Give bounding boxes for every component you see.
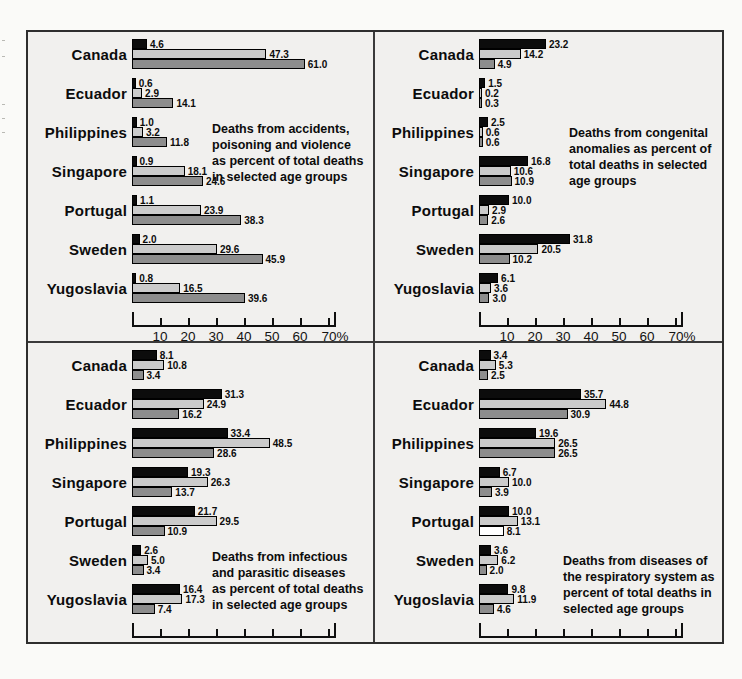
bar bbox=[479, 49, 521, 59]
bar-value-label: 3.4 bbox=[147, 565, 161, 576]
bar bbox=[479, 428, 536, 438]
country-row: Canada3.45.32.5 bbox=[375, 350, 722, 380]
axis-tick bbox=[563, 629, 565, 636]
bar-line: 0.3 bbox=[479, 98, 502, 108]
country-label: Philippines bbox=[375, 435, 479, 452]
bar-value-label: 10.9 bbox=[168, 526, 187, 537]
axis-tick-label: 60 bbox=[639, 640, 654, 642]
bar bbox=[132, 88, 142, 98]
chart-annotation: Deaths from congenitalanomalies as perce… bbox=[569, 125, 711, 189]
axis-tick bbox=[300, 318, 302, 325]
quadrant-infectious: Canada8.110.83.4Ecuador31.324.916.2Phili… bbox=[28, 343, 375, 642]
bar-line: 0.6 bbox=[132, 78, 196, 88]
bar-line: 3.4 bbox=[132, 370, 187, 380]
country-label: Canada bbox=[375, 46, 479, 63]
bar-value-label: 38.3 bbox=[244, 215, 263, 226]
bar-line: 44.8 bbox=[479, 399, 629, 409]
bar bbox=[479, 88, 482, 98]
country-row: Philippines33.448.528.6 bbox=[28, 428, 373, 458]
bar-line: 31.3 bbox=[132, 389, 244, 399]
bar-group: 0.62.914.1 bbox=[132, 78, 196, 108]
bar-value-label: 2.0 bbox=[490, 565, 504, 576]
bar-value-label: 3.4 bbox=[147, 370, 161, 381]
chart-annotation-line: anomalies as percent of bbox=[569, 141, 711, 157]
bar-group: 19.626.526.5 bbox=[479, 428, 578, 458]
chart-annotation-line: percent of total deaths in bbox=[563, 585, 714, 601]
axis-tick bbox=[328, 629, 330, 636]
bar bbox=[132, 127, 143, 137]
bar bbox=[479, 127, 483, 137]
bar-group: 6.710.03.9 bbox=[479, 467, 531, 497]
axis-tick bbox=[675, 318, 677, 325]
axis-tick-label: 30 bbox=[208, 640, 223, 642]
axis-tick bbox=[160, 629, 162, 636]
bar bbox=[479, 360, 496, 370]
bar-group: 35.744.830.9 bbox=[479, 389, 629, 419]
bar bbox=[132, 39, 147, 49]
bar bbox=[479, 39, 546, 49]
bar-group: 1.123.938.3 bbox=[132, 195, 264, 225]
chart-annotation: Deaths from accidents,poisoning and viol… bbox=[212, 121, 363, 185]
bar-line: 13.7 bbox=[132, 487, 230, 497]
bar-line: 7.4 bbox=[132, 604, 205, 614]
bar bbox=[479, 166, 511, 176]
bar-value-label: 16.8 bbox=[531, 156, 550, 167]
bar bbox=[132, 283, 180, 293]
bar-value-label: 8.1 bbox=[507, 526, 521, 537]
bar-line: 19.6 bbox=[479, 428, 578, 438]
bar-value-label: 4.9 bbox=[498, 59, 512, 70]
bar-line: 2.5 bbox=[479, 370, 513, 380]
bar-value-label: 30.9 bbox=[571, 409, 590, 420]
bar-group: 2.029.645.9 bbox=[132, 234, 285, 264]
bar bbox=[479, 399, 606, 409]
bar-value-label: 28.6 bbox=[217, 448, 236, 459]
bar bbox=[132, 370, 144, 380]
country-row: Portugal1.123.938.3 bbox=[28, 195, 373, 225]
bar-line: 16.5 bbox=[132, 283, 267, 293]
bar bbox=[479, 487, 492, 497]
chart-respiratory: Canada3.45.32.5Ecuador35.744.830.9Philip… bbox=[375, 350, 722, 642]
axis-tick-label: 60 bbox=[639, 329, 654, 343]
bar-line: 23.9 bbox=[132, 205, 264, 215]
bar-line: 14.2 bbox=[479, 49, 568, 59]
bar-line: 0.6 bbox=[479, 127, 505, 137]
axis-tick-label: 40 bbox=[236, 329, 251, 343]
bar-line: 26.5 bbox=[479, 438, 578, 448]
axis-end-cap bbox=[681, 623, 683, 636]
axis-tick-label: 70% bbox=[321, 329, 348, 343]
axis-tick bbox=[300, 629, 302, 636]
bar-line: 30.9 bbox=[479, 409, 629, 419]
bar-line: 35.7 bbox=[479, 389, 629, 399]
bar bbox=[132, 389, 222, 399]
bar-line: 3.0 bbox=[479, 293, 515, 303]
bar bbox=[132, 98, 173, 108]
country-label: Singapore bbox=[28, 163, 132, 180]
bar-group: 10.013.18.1 bbox=[479, 506, 540, 536]
bar bbox=[479, 283, 491, 293]
axis-tick bbox=[272, 318, 274, 325]
bar-line: 39.6 bbox=[132, 293, 267, 303]
bar-value-label: 26.3 bbox=[211, 477, 230, 488]
bar bbox=[479, 215, 488, 225]
axis-tick bbox=[244, 629, 246, 636]
bar-line: 0.8 bbox=[132, 273, 267, 283]
bar-value-label: 10.0 bbox=[512, 477, 531, 488]
bar-line: 16.2 bbox=[132, 409, 244, 419]
x-axis-line bbox=[132, 623, 336, 638]
bar-group: 3.66.22.0 bbox=[479, 545, 515, 575]
country-row: Sweden2.029.645.9 bbox=[28, 234, 373, 264]
bar bbox=[479, 293, 489, 303]
bar-line: 47.3 bbox=[132, 49, 327, 59]
country-label: Portugal bbox=[28, 513, 132, 530]
axis-tick-label: 40 bbox=[583, 329, 598, 343]
x-axis: 10203040506070% bbox=[132, 623, 373, 642]
bar-value-label: 39.6 bbox=[248, 293, 267, 304]
bar-line: 17.3 bbox=[132, 594, 205, 604]
bar-line: 3.9 bbox=[479, 487, 531, 497]
bar-value-label: 35.7 bbox=[584, 389, 603, 400]
bar bbox=[132, 350, 157, 360]
axis-tick-label: 50 bbox=[264, 329, 279, 343]
bar-line: 1.0 bbox=[132, 117, 189, 127]
bar-line: 9.8 bbox=[479, 584, 536, 594]
axis-tick-label: 40 bbox=[583, 640, 598, 642]
